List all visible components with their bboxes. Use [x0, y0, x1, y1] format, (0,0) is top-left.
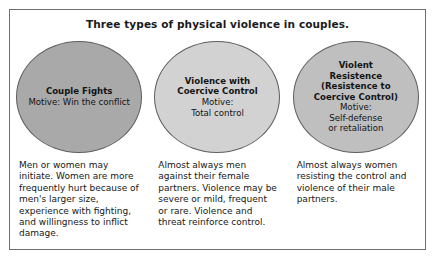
circle-motive-label: Motive: — [332, 102, 380, 113]
circle-zone: Violence with Coercive Control Motive: T… — [148, 38, 286, 160]
figure-title: Three types of physical violence in coup… — [10, 18, 425, 30]
circle-motive-value: Total control — [183, 108, 252, 119]
circle-violence-with-coercive-control: Violence with Coercive Control Motive: T… — [154, 41, 280, 153]
circle-motive-value-line-2: or retaliation — [320, 123, 391, 134]
caption-violent-resistence: Almost always women resisting the contro… — [287, 160, 425, 206]
column-couple-fights: Couple Fights Motive: Win the conflict M… — [10, 38, 148, 248]
circle-heading-line-3: (Resistence to — [313, 81, 399, 92]
circle-violent-resistence: Violent Resistence (Resistence to Coerci… — [293, 41, 419, 153]
circle-heading: Violence with Coercive Control — [155, 76, 279, 97]
circle-heading-line-4: Coercive Control) — [306, 92, 406, 103]
diagram-columns: Couple Fights Motive: Win the conflict M… — [10, 38, 425, 248]
caption-violence-with-coercive-control: Almost always men against their female p… — [148, 160, 286, 228]
circle-motive-label: Motive: — [194, 97, 242, 108]
circle-heading-line-2: Resistence — [322, 71, 391, 82]
circle-heading-line-1: Violent — [331, 60, 381, 71]
caption-couple-fights: Men or women may initiate. Women are mor… — [10, 160, 148, 240]
circle-motive-value-line-1: Self-defense — [321, 113, 390, 124]
column-violent-resistence: Violent Resistence (Resistence to Coerci… — [287, 38, 425, 248]
circle-couple-fights: Couple Fights Motive: Win the conflict — [16, 41, 142, 153]
circle-zone: Couple Fights Motive: Win the conflict — [10, 38, 148, 160]
circle-zone: Violent Resistence (Resistence to Coerci… — [287, 38, 425, 160]
figure-frame: Three types of physical violence in coup… — [9, 9, 426, 250]
circle-heading: Couple Fights — [38, 86, 121, 97]
column-violence-with-coercive-control: Violence with Coercive Control Motive: T… — [148, 38, 286, 248]
circle-motive: Motive: Win the conflict — [20, 97, 137, 108]
